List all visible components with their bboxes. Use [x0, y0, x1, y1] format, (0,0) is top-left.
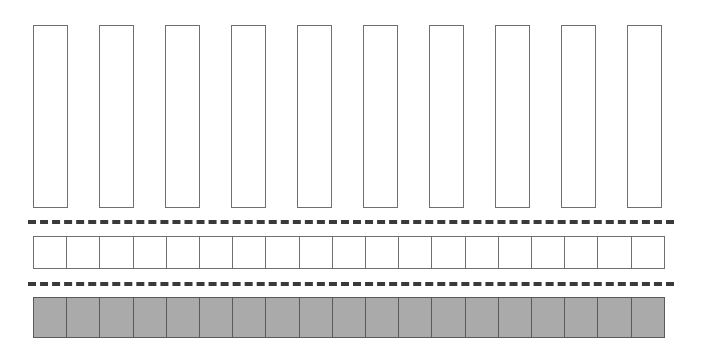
gray-squares-cell-8 — [266, 298, 299, 337]
white-squares-cell-12 — [399, 237, 432, 268]
gray-squares-cell-18 — [598, 298, 631, 337]
diagram-canvas — [0, 0, 702, 348]
white-squares-cell-5 — [167, 237, 200, 268]
tall-bar-3 — [165, 25, 200, 208]
gray-squares-cell-12 — [399, 298, 432, 337]
gray-squares-cell-3 — [100, 298, 133, 337]
tall-bar-8 — [495, 25, 530, 208]
gray-squares-cell-16 — [532, 298, 565, 337]
tall-bar-10 — [627, 25, 662, 208]
gray-squares-cell-5 — [167, 298, 200, 337]
gray-squares-cell-15 — [499, 298, 532, 337]
gray-squares-cell-19 — [632, 298, 664, 337]
white-squares-cell-1 — [34, 237, 67, 268]
white-squares-row — [33, 236, 665, 269]
white-squares-cell-2 — [67, 237, 100, 268]
gray-squares-cell-17 — [565, 298, 598, 337]
white-squares-cell-14 — [466, 237, 499, 268]
tall-bar-4 — [231, 25, 266, 208]
gray-squares-cell-9 — [300, 298, 333, 337]
gray-squares-cell-14 — [466, 298, 499, 337]
gray-squares-cell-7 — [233, 298, 266, 337]
dashed-divider-upper — [28, 220, 674, 224]
white-squares-cell-15 — [499, 237, 532, 268]
white-squares-cell-11 — [366, 237, 399, 268]
gray-squares-cell-6 — [200, 298, 233, 337]
white-squares-cell-8 — [266, 237, 299, 268]
gray-squares-cell-11 — [366, 298, 399, 337]
gray-squares-cell-13 — [432, 298, 465, 337]
tall-bar-7 — [429, 25, 464, 208]
white-squares-cell-10 — [333, 237, 366, 268]
tall-bars-row — [33, 25, 662, 208]
white-squares-cell-18 — [598, 237, 631, 268]
gray-squares-cell-2 — [67, 298, 100, 337]
tall-bar-2 — [99, 25, 134, 208]
tall-bar-9 — [561, 25, 596, 208]
gray-squares-cell-4 — [134, 298, 167, 337]
tall-bar-6 — [363, 25, 398, 208]
white-squares-cell-4 — [134, 237, 167, 268]
white-squares-cell-7 — [233, 237, 266, 268]
tall-bar-1 — [33, 25, 68, 208]
white-squares-cell-16 — [532, 237, 565, 268]
white-squares-cell-9 — [300, 237, 333, 268]
white-squares-cell-19 — [632, 237, 664, 268]
gray-squares-cell-10 — [333, 298, 366, 337]
white-squares-cell-3 — [100, 237, 133, 268]
white-squares-cell-17 — [565, 237, 598, 268]
dashed-divider-lower — [28, 282, 674, 286]
gray-squares-row — [33, 297, 665, 338]
tall-bar-5 — [297, 25, 332, 208]
white-squares-cell-6 — [200, 237, 233, 268]
gray-squares-cell-1 — [34, 298, 67, 337]
white-squares-cell-13 — [432, 237, 465, 268]
